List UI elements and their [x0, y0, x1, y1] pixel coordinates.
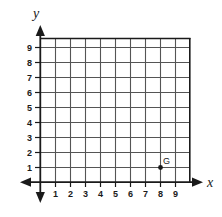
y-axis — [35, 25, 45, 203]
grid-and-axes-svg — [0, 0, 222, 217]
x-tick-label-1: 1 — [50, 189, 62, 199]
x-tick-label-5: 5 — [110, 189, 122, 199]
y-tick-label-4: 4 — [20, 118, 32, 128]
y-axis-arrow-down — [36, 192, 45, 203]
y-tick-label-9: 9 — [20, 43, 32, 53]
x-axis-arrow-right — [192, 178, 203, 187]
x-tick-label-9: 9 — [170, 189, 182, 199]
coordinate-grid-figure: 1 2 3 4 5 6 7 8 9 9 8 7 6 5 4 3 2 1 y x … — [0, 0, 222, 217]
x-axis-label: x — [207, 175, 213, 191]
x-axis-arrow-left — [20, 178, 31, 187]
y-tick-label-8: 8 — [20, 58, 32, 68]
y-axis-label: y — [33, 6, 39, 22]
x-tick-label-4: 4 — [95, 189, 107, 199]
y-tick-label-6: 6 — [20, 88, 32, 98]
point-label-g: G — [163, 156, 170, 166]
y-tick-label-2: 2 — [20, 148, 32, 158]
x-tick-label-6: 6 — [125, 189, 137, 199]
x-tick-label-8: 8 — [155, 189, 167, 199]
y-tick-label-1: 1 — [20, 163, 32, 173]
x-tick-label-7: 7 — [140, 189, 152, 199]
y-axis-arrow-up — [36, 25, 45, 36]
x-tick-label-2: 2 — [65, 189, 77, 199]
x-tick-label-3: 3 — [80, 189, 92, 199]
y-tick-label-5: 5 — [20, 103, 32, 113]
y-tick-label-7: 7 — [20, 73, 32, 83]
y-tick-label-3: 3 — [20, 133, 32, 143]
